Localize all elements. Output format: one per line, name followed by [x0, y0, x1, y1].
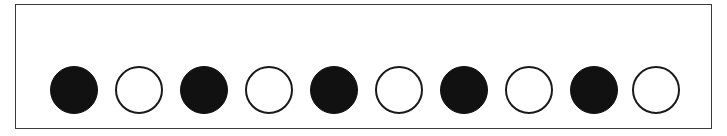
empty-circle: [375, 66, 423, 114]
filled-circle: [180, 66, 228, 114]
filled-circle: [310, 66, 358, 114]
filled-circle: [50, 66, 98, 114]
empty-circle: [505, 66, 553, 114]
empty-circle: [632, 66, 680, 114]
diagram-frame: [15, 4, 712, 129]
filled-circle: [440, 66, 488, 114]
empty-circle: [115, 66, 163, 114]
filled-circle: [570, 66, 618, 114]
empty-circle: [245, 66, 293, 114]
